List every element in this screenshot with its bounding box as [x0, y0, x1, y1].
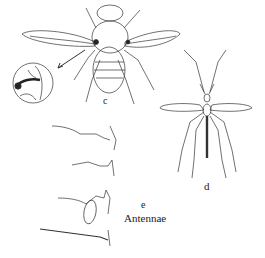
antennae-illustrations — [40, 126, 116, 246]
label-antennae: Antennae — [124, 212, 166, 224]
magnified-detail — [13, 63, 53, 103]
label-d: d — [204, 180, 210, 192]
cranefly-illustration — [160, 50, 252, 178]
illustration-canvas: c d e Antennae — [0, 0, 265, 258]
fly-illustration — [22, 5, 180, 104]
label-e: e — [141, 199, 145, 210]
label-c: c — [103, 95, 107, 106]
